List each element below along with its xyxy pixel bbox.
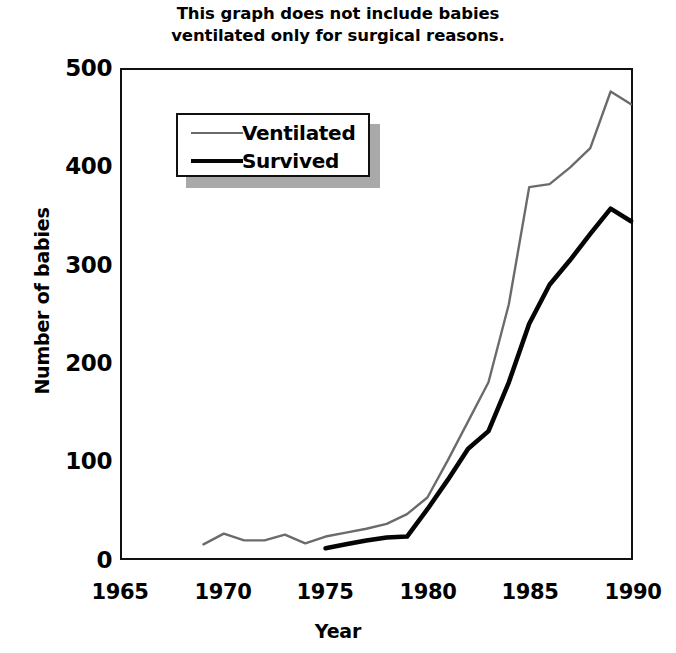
y-tick-300: 300 — [44, 252, 112, 278]
y-tick-0: 0 — [44, 547, 112, 573]
chart-figure: This graph does not include babies venti… — [0, 0, 676, 653]
chart-legend: Ventilated Survived — [176, 113, 370, 177]
x-tick-1980: 1980 — [383, 580, 473, 604]
x-axis-ticks: 1965 1970 1975 1980 1985 1990 — [0, 580, 676, 614]
legend-line-icon-ventilated — [191, 127, 243, 139]
y-tick-400: 400 — [44, 153, 112, 179]
x-tick-1985: 1985 — [485, 580, 575, 604]
legend-label-ventilated: Ventilated — [242, 121, 355, 145]
series-line-survived — [326, 209, 631, 549]
x-tick-1970: 1970 — [178, 580, 268, 604]
y-tick-200: 200 — [44, 350, 112, 376]
legend-line-icon-survived — [191, 155, 243, 167]
legend-item-survived[interactable]: Survived — [178, 147, 368, 175]
x-axis-label: Year — [0, 620, 676, 642]
x-tick-1975: 1975 — [280, 580, 370, 604]
x-tick-1965: 1965 — [75, 580, 165, 604]
legend-item-ventilated[interactable]: Ventilated — [178, 119, 368, 147]
x-tick-1990: 1990 — [588, 580, 676, 604]
y-axis-ticks: 500 400 300 200 100 0 — [38, 0, 112, 653]
y-tick-100: 100 — [44, 448, 112, 474]
legend-label-survived: Survived — [242, 149, 339, 173]
y-tick-500: 500 — [44, 55, 112, 81]
